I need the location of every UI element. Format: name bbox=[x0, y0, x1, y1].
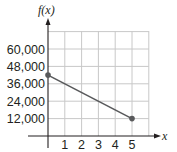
x-tick-label: 4 bbox=[112, 138, 119, 152]
y-tick-label: 48,000 bbox=[7, 60, 45, 74]
series-line bbox=[48, 75, 132, 119]
y-tick-label: 60,000 bbox=[7, 43, 45, 57]
x-tick-label: 3 bbox=[95, 138, 102, 152]
y-tick-label: 36,000 bbox=[7, 77, 45, 91]
data-point bbox=[129, 116, 135, 122]
data-point bbox=[45, 72, 51, 78]
x-tick-label: 1 bbox=[61, 138, 68, 152]
x-axis-arrow-icon bbox=[154, 134, 161, 139]
line-chart: 12,00024,00036,00048,00060,000 12345 f(x… bbox=[0, 0, 177, 152]
x-axis-title: x bbox=[161, 129, 168, 143]
y-axis-title: f(x) bbox=[38, 3, 55, 17]
y-axis-arrow-icon bbox=[46, 18, 51, 25]
y-tick-label: 12,000 bbox=[7, 112, 45, 126]
y-tick-label: 24,000 bbox=[7, 95, 45, 109]
x-tick-label: 2 bbox=[78, 138, 85, 152]
axes bbox=[28, 18, 161, 148]
data-series bbox=[45, 72, 135, 121]
x-tick-label: 5 bbox=[129, 138, 136, 152]
y-tick-labels: 12,00024,00036,00048,00060,000 bbox=[7, 43, 45, 127]
x-tick-labels: 12345 bbox=[61, 138, 135, 152]
